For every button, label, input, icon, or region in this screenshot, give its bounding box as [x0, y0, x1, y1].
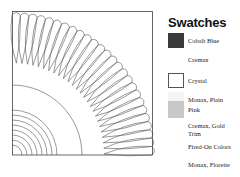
- legend-item-crystal: Crystal: [168, 73, 207, 88]
- legend-label: Crystal: [188, 77, 207, 85]
- petal-border: [11, 13, 154, 156]
- legend-title: Swatches: [168, 15, 226, 30]
- legend-item-cobalt-blue: Cobalt Blue: [168, 33, 219, 48]
- legend-label: Fired-On Colors: [188, 143, 231, 151]
- swatch-pink: [168, 101, 184, 118]
- legend-label: Cremax: [188, 56, 209, 64]
- legend-label: Cobalt Blue: [188, 37, 219, 45]
- concentric-rings: [12, 85, 82, 155]
- plate-quarter-diagram: [0, 0, 160, 177]
- legend-item-cremax: Cremax: [168, 56, 209, 64]
- swatch-cobalt-blue: [168, 33, 184, 48]
- swatch-crystal: [168, 73, 184, 88]
- legend-label: Pink: [188, 106, 200, 114]
- legend-item-cremax-gold-trim: Cremax, Gold Trim: [168, 122, 238, 138]
- legend-item-fired-on-colors: Fired-On Colors: [168, 143, 231, 151]
- legend-item-pink: Pink: [168, 101, 200, 118]
- legend-label: Cremax, Gold Trim: [188, 122, 233, 138]
- legend-item-monax-florette: Monax, Florette: [168, 161, 230, 169]
- legend-label: Monax, Florette: [188, 161, 230, 169]
